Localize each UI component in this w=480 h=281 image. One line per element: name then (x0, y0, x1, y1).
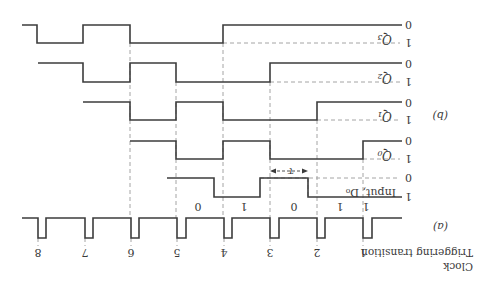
input-d0-label: Input, D₀ (345, 186, 396, 199)
transition-5: 5 (174, 246, 181, 259)
q2-label: Q₂ (377, 71, 392, 85)
q0-label: Q₀ (377, 148, 392, 162)
part-a-label: (a) (433, 220, 448, 233)
d0-level-1: 1 (405, 190, 412, 203)
q0-waveform (130, 141, 402, 159)
q3-label: Q₃ (377, 32, 392, 46)
tau-label: τ (287, 165, 294, 178)
triggering-transition-caption: Triggering transition (361, 247, 473, 259)
input-bit-5: 0 (195, 200, 202, 213)
transition-guides (38, 43, 363, 246)
d0-level-0: 0 (405, 171, 412, 184)
q3-level-0: 0 (405, 18, 412, 31)
transition-4: 4 (221, 246, 228, 259)
q3-waveform (22, 25, 402, 43)
transition-3: 3 (267, 246, 274, 259)
transition-2: 2 (314, 246, 321, 259)
input-bit-3: 0 (291, 200, 298, 213)
input-bit-2: 1 (337, 200, 344, 213)
q3-level-1: 1 (405, 36, 412, 49)
q1-waveform (83, 102, 402, 120)
q0-level-0: 0 (405, 134, 412, 147)
clock-waveform (22, 218, 402, 238)
part-b-label: (b) (432, 109, 448, 122)
q2-level-1: 1 (405, 75, 412, 88)
q1-level-0: 0 (405, 96, 412, 109)
q2-waveform (38, 63, 402, 82)
transition-7: 7 (82, 246, 89, 259)
rotated-labels: 0 1 Q₃ 0 1 Q₂ 0 1 Q₁ (b) 0 1 Q₀ 0 1 Inpu… (35, 18, 474, 273)
q1-level-1: 1 (405, 113, 412, 126)
timing-diagram: 0 1 Q₃ 0 1 Q₂ 0 1 Q₁ (b) 0 1 Q₀ 0 1 Inpu… (0, 0, 480, 281)
input-bit-4: 1 (241, 200, 248, 213)
clock-caption: Clock (442, 261, 473, 273)
transition-8: 8 (35, 246, 42, 259)
q2-level-0: 0 (405, 57, 412, 70)
q1-label: Q₁ (377, 109, 392, 123)
q0-level-1: 1 (405, 152, 412, 165)
input-bit-1: 1 (363, 200, 370, 213)
transition-6: 6 (128, 246, 135, 259)
